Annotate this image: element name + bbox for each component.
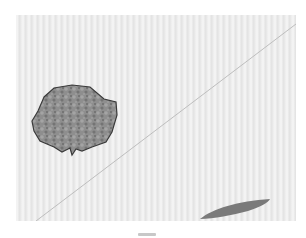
rock [32,85,117,155]
scene-illustration [16,15,296,221]
image-panel [16,15,296,221]
caption-fragment [138,233,156,236]
rock-shadow [200,199,270,219]
